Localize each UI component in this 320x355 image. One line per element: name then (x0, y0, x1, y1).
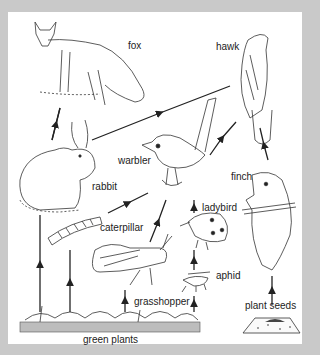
label-rabbit: rabbit (92, 181, 117, 192)
label-aphid: aphid (216, 270, 240, 281)
aphid-icon (182, 272, 210, 292)
label-warbler: warbler (118, 155, 151, 166)
label-finch: finch (231, 171, 252, 182)
arrow-warbler-hawk (210, 122, 236, 155)
label-hawk: hawk (216, 41, 239, 52)
label-grasshopper: grasshopper (134, 296, 190, 307)
label-plant-seeds: plant seeds (245, 300, 296, 311)
ladybird-icon (180, 213, 228, 250)
warbler-icon (142, 98, 216, 186)
fox-icon (35, 22, 144, 105)
label-fox: fox (128, 40, 141, 51)
label-caterpillar: caterpillar (100, 222, 143, 233)
arrow-grasshopper-warbler (150, 200, 166, 242)
hawk-icon (241, 34, 272, 144)
grasshopper-icon (92, 234, 172, 285)
caterpillar-icon (48, 217, 102, 245)
green-plants-icon (20, 306, 200, 332)
plant-seeds-icon (243, 318, 300, 333)
finch-icon (242, 172, 296, 270)
label-ladybird: ladybird (202, 202, 237, 213)
label-green-plants: green plants (83, 334, 138, 345)
rabbit-icon (20, 120, 95, 212)
arrow-caterpillar-warbler (108, 193, 148, 213)
